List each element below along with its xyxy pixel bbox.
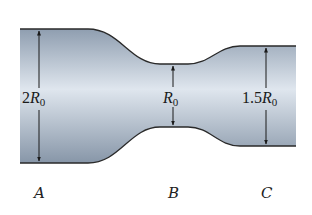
- dimension-c: 1.5R0: [242, 89, 277, 108]
- pipe-diagram: 2R0 R0 1.5R0 A B C: [0, 0, 312, 215]
- dimension-b: R0: [163, 89, 178, 108]
- section-label-a: A: [34, 184, 45, 202]
- dimension-a: 2R0: [22, 89, 45, 108]
- section-label-b: B: [168, 184, 179, 202]
- section-label-c: C: [261, 184, 272, 202]
